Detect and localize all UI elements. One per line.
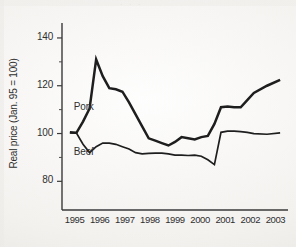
x-tick-label: 1997: [112, 214, 137, 225]
x-tick-label: 2003: [263, 214, 288, 225]
y-tick-label: 80: [34, 174, 53, 185]
x-tick-label: 1996: [87, 214, 112, 225]
x-axis-tick-labels: 199519961997199819992000200120022003: [62, 214, 288, 225]
x-tick-label: 2000: [188, 214, 213, 225]
y-tick-label: 120: [34, 79, 53, 90]
y-axis-title: Real price (Jan. 95 = 100): [8, 39, 19, 189]
x-tick-label: 1998: [137, 214, 162, 225]
x-tick-label: 1999: [162, 214, 187, 225]
y-tick-label: 100: [34, 127, 53, 138]
x-tick-label: 1995: [62, 214, 87, 225]
series-label-beef: Beef: [74, 146, 94, 157]
series-label-pork: Pork: [74, 101, 94, 112]
x-tick-label: 2002: [238, 214, 263, 225]
series-line-beef: [70, 131, 280, 164]
y-tick-label: 140: [34, 31, 53, 42]
x-tick-label: 2001: [213, 214, 238, 225]
chart-figure: · · · 14012010080 Real price (Jan. 95 = …: [0, 0, 296, 247]
